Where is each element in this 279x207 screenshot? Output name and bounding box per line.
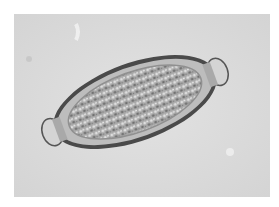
egg-illustration <box>14 14 270 197</box>
micrograph-photo <box>14 14 270 197</box>
